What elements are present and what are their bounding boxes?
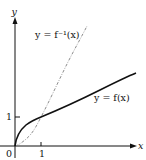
inverse-function-curve bbox=[16, 26, 87, 146]
function-label: y = f(x) bbox=[93, 92, 130, 103]
y-axis: y bbox=[11, 6, 18, 158]
function-curve bbox=[15, 73, 136, 146]
x-tick-label-1: 1 bbox=[39, 148, 45, 159]
y-axis-arrow-icon bbox=[13, 17, 18, 24]
y-tick-label-1: 1 bbox=[6, 111, 12, 122]
y-axis-label: y bbox=[11, 6, 18, 17]
x-axis-arrow-icon bbox=[130, 144, 137, 149]
x-axis: x bbox=[0, 140, 144, 151]
graph-figure: y x 0 1 1 y = f⁻¹(x) y = f(x) bbox=[0, 0, 146, 160]
origin-label: 0 bbox=[6, 148, 12, 159]
x-axis-label: x bbox=[138, 140, 144, 151]
inverse-function-label: y = f⁻¹(x) bbox=[34, 29, 79, 40]
